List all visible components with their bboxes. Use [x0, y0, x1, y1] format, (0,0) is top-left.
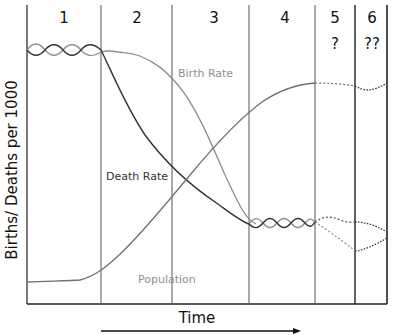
- y-axis-label: Births/ Deaths per 1000: [3, 80, 21, 259]
- birth-rate-label: Birth Rate: [178, 67, 233, 80]
- population-series: [27, 83, 387, 282]
- death-rate-label: Death Rate: [106, 170, 168, 183]
- stage-6-label: 6: [367, 9, 377, 27]
- stage-2-label: 2: [132, 9, 142, 27]
- stage-6-uncertain-mark: ??: [364, 35, 380, 53]
- population-label: Population: [138, 273, 196, 286]
- x-axis-label: Time: [178, 309, 216, 327]
- stage-dividers: [101, 5, 355, 304]
- stage-3-label: 3: [209, 9, 219, 27]
- stage-1-label: 1: [59, 9, 69, 27]
- stage-5-label: 5: [330, 9, 340, 27]
- stage-4-label: 4: [280, 9, 290, 27]
- stage-5-uncertain-mark: ?: [331, 35, 339, 53]
- time-arrow-icon: [101, 328, 301, 334]
- demographic-transition-chart: 1 2 3 4 5 6 ? ?? Birth Rate Death Rate P…: [0, 0, 393, 335]
